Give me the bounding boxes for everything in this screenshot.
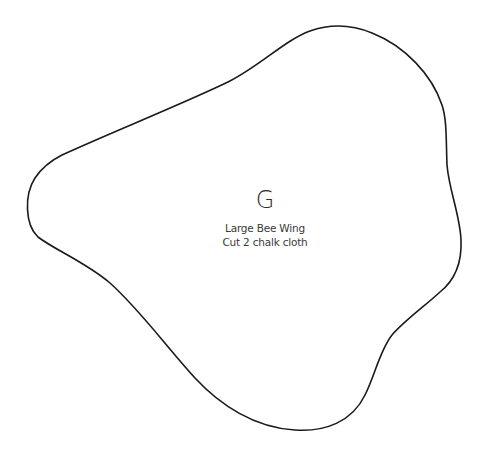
piece-name: Large Bee Wing [205,221,325,235]
piece-letter: G [215,186,315,214]
cutting-instruction: Cut 2 chalk cloth [205,235,325,249]
piece-label: Large Bee Wing Cut 2 chalk cloth [205,221,325,249]
